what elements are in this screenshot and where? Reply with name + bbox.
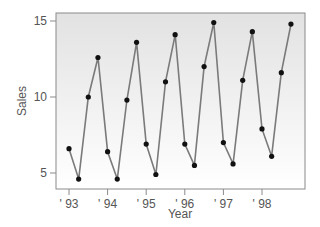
- x-tick-label: ' 93: [60, 197, 79, 211]
- x-tick-label: ' 98: [253, 197, 272, 211]
- data-point: [76, 176, 81, 181]
- data-point: [182, 142, 187, 147]
- x-tick-label: ' 97: [214, 197, 233, 211]
- data-point: [105, 149, 110, 154]
- data-point: [230, 161, 235, 166]
- data-point: [86, 94, 91, 99]
- data-point: [288, 21, 293, 26]
- x-axis-title: Year: [168, 207, 192, 221]
- y-tick-label: 5: [40, 166, 47, 180]
- x-tick-label: ' 95: [137, 197, 156, 211]
- data-point: [259, 126, 264, 131]
- data-point: [153, 172, 158, 177]
- x-tick-label: ' 94: [98, 197, 117, 211]
- data-point: [95, 55, 100, 60]
- data-point: [115, 176, 120, 181]
- data-point: [202, 64, 207, 69]
- data-point: [211, 20, 216, 25]
- data-point: [269, 154, 274, 159]
- data-point: [250, 29, 255, 34]
- y-tick-label: 15: [34, 14, 48, 28]
- x-axis: ' 93' 94' 95' 96' 97' 98: [60, 189, 272, 211]
- data-point: [163, 79, 168, 84]
- data-point: [173, 32, 178, 37]
- data-point: [134, 40, 139, 45]
- data-point: [192, 163, 197, 168]
- data-point: [124, 97, 129, 102]
- y-axis-title: Sales: [15, 86, 29, 116]
- data-point: [66, 146, 71, 151]
- data-point: [144, 142, 149, 147]
- sales-line-chart: 51015 ' 93' 94' 95' 96' 97' 98 Sales Yea…: [0, 0, 320, 227]
- y-axis: 51015: [34, 14, 56, 180]
- y-tick-label: 10: [34, 90, 48, 104]
- data-point: [279, 70, 284, 75]
- data-point: [240, 78, 245, 83]
- data-point: [221, 140, 226, 145]
